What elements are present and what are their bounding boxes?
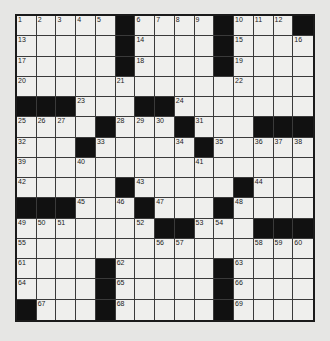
crossword-cell[interactable]: 32 (17, 138, 37, 158)
crossword-cell[interactable]: 67 (37, 300, 57, 320)
crossword-cell[interactable] (76, 36, 96, 56)
crossword-cell[interactable]: 9 (195, 16, 215, 36)
crossword-cell[interactable] (135, 77, 155, 97)
crossword-cell[interactable] (293, 259, 313, 279)
crossword-cell[interactable] (293, 77, 313, 97)
crossword-cell[interactable] (76, 279, 96, 299)
crossword-cell[interactable]: 49 (17, 219, 37, 239)
crossword-cell[interactable] (274, 158, 294, 178)
crossword-cell[interactable] (155, 77, 175, 97)
crossword-cell[interactable]: 40 (76, 158, 96, 178)
crossword-cell[interactable] (56, 57, 76, 77)
crossword-cell[interactable] (76, 219, 96, 239)
crossword-cell[interactable] (116, 97, 136, 117)
crossword-cell[interactable]: 27 (56, 117, 76, 137)
crossword-cell[interactable] (175, 300, 195, 320)
crossword-cell[interactable]: 26 (37, 117, 57, 137)
crossword-cell[interactable]: 18 (135, 57, 155, 77)
crossword-cell[interactable] (195, 178, 215, 198)
crossword-cell[interactable]: 51 (56, 219, 76, 239)
crossword-cell[interactable] (274, 36, 294, 56)
crossword-cell[interactable] (274, 57, 294, 77)
crossword-cell[interactable]: 15 (234, 36, 254, 56)
crossword-cell[interactable] (195, 300, 215, 320)
crossword-cell[interactable] (155, 57, 175, 77)
crossword-cell[interactable] (234, 117, 254, 137)
crossword-cell[interactable]: 43 (135, 178, 155, 198)
crossword-cell[interactable] (214, 97, 234, 117)
crossword-cell[interactable] (254, 36, 274, 56)
crossword-cell[interactable]: 11 (254, 16, 274, 36)
crossword-cell[interactable]: 55 (17, 239, 37, 259)
crossword-cell[interactable] (293, 300, 313, 320)
crossword-cell[interactable] (175, 77, 195, 97)
crossword-cell[interactable]: 54 (214, 219, 234, 239)
crossword-cell[interactable]: 19 (234, 57, 254, 77)
crossword-cell[interactable] (37, 77, 57, 97)
crossword-cell[interactable] (56, 36, 76, 56)
crossword-cell[interactable] (234, 138, 254, 158)
crossword-cell[interactable] (293, 57, 313, 77)
crossword-cell[interactable]: 46 (116, 198, 136, 218)
crossword-cell[interactable]: 23 (76, 97, 96, 117)
crossword-cell[interactable]: 50 (37, 219, 57, 239)
crossword-cell[interactable] (214, 77, 234, 97)
crossword-cell[interactable] (116, 219, 136, 239)
crossword-cell[interactable] (155, 36, 175, 56)
crossword-cell[interactable] (96, 77, 116, 97)
crossword-cell[interactable] (254, 97, 274, 117)
crossword-cell[interactable]: 29 (135, 117, 155, 137)
crossword-cell[interactable] (116, 138, 136, 158)
crossword-cell[interactable]: 36 (254, 138, 274, 158)
crossword-cell[interactable] (293, 158, 313, 178)
crossword-cell[interactable]: 33 (96, 138, 116, 158)
crossword-cell[interactable] (37, 178, 57, 198)
crossword-cell[interactable]: 61 (17, 259, 37, 279)
crossword-cell[interactable] (76, 300, 96, 320)
crossword-cell[interactable] (37, 57, 57, 77)
crossword-cell[interactable]: 20 (17, 77, 37, 97)
crossword-cell[interactable] (135, 239, 155, 259)
crossword-cell[interactable]: 5 (96, 16, 116, 36)
crossword-cell[interactable] (274, 300, 294, 320)
crossword-cell[interactable]: 21 (116, 77, 136, 97)
crossword-cell[interactable] (254, 259, 274, 279)
crossword-cell[interactable] (214, 239, 234, 259)
crossword-cell[interactable] (56, 259, 76, 279)
crossword-cell[interactable] (195, 239, 215, 259)
crossword-cell[interactable] (175, 279, 195, 299)
crossword-cell[interactable] (155, 138, 175, 158)
crossword-cell[interactable] (214, 158, 234, 178)
crossword-cell[interactable]: 65 (116, 279, 136, 299)
crossword-cell[interactable] (155, 300, 175, 320)
crossword-cell[interactable] (56, 300, 76, 320)
crossword-cell[interactable] (234, 219, 254, 239)
crossword-cell[interactable]: 8 (175, 16, 195, 36)
crossword-cell[interactable] (76, 178, 96, 198)
crossword-cell[interactable] (175, 259, 195, 279)
crossword-cell[interactable]: 16 (293, 36, 313, 56)
crossword-cell[interactable] (175, 198, 195, 218)
crossword-cell[interactable] (195, 259, 215, 279)
crossword-cell[interactable] (175, 36, 195, 56)
crossword-cell[interactable]: 60 (293, 239, 313, 259)
crossword-cell[interactable] (274, 279, 294, 299)
crossword-cell[interactable] (195, 57, 215, 77)
crossword-cell[interactable] (175, 158, 195, 178)
crossword-cell[interactable]: 63 (234, 259, 254, 279)
crossword-cell[interactable] (195, 97, 215, 117)
crossword-cell[interactable] (135, 300, 155, 320)
crossword-cell[interactable] (195, 279, 215, 299)
crossword-cell[interactable]: 6 (135, 16, 155, 36)
crossword-cell[interactable]: 34 (175, 138, 195, 158)
crossword-cell[interactable] (135, 279, 155, 299)
crossword-cell[interactable]: 39 (17, 158, 37, 178)
crossword-cell[interactable] (274, 178, 294, 198)
crossword-cell[interactable]: 12 (274, 16, 294, 36)
crossword-cell[interactable] (37, 138, 57, 158)
crossword-cell[interactable] (274, 97, 294, 117)
crossword-cell[interactable] (175, 178, 195, 198)
crossword-cell[interactable] (96, 219, 116, 239)
crossword-cell[interactable] (76, 57, 96, 77)
crossword-cell[interactable]: 66 (234, 279, 254, 299)
